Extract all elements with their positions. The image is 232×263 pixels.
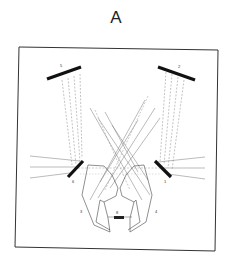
label-left-prism: 3 bbox=[80, 209, 83, 214]
right-incoming-rays bbox=[158, 157, 205, 179]
label-top-left-mirror: 5 bbox=[60, 63, 63, 68]
left-incoming-rays bbox=[30, 156, 80, 178]
mirror-left-small bbox=[68, 161, 83, 177]
label-right-small-mirror: 1 bbox=[164, 179, 167, 184]
mirror-top-left bbox=[47, 67, 81, 79]
mirror-right-small bbox=[155, 161, 171, 177]
optical-diagram: 5 2 6 1 3 4 8 bbox=[0, 0, 232, 263]
label-top-right-mirror: 2 bbox=[178, 64, 181, 69]
left-vertical-rays bbox=[62, 74, 82, 165]
label-center-element: 8 bbox=[116, 210, 119, 215]
right-prism bbox=[120, 165, 152, 232]
label-left-small-mirror: 6 bbox=[72, 179, 75, 184]
mirror-top-right bbox=[158, 67, 195, 80]
label-right-prism: 4 bbox=[155, 209, 158, 214]
center-element bbox=[108, 216, 132, 219]
right-vertical-rays bbox=[160, 72, 184, 170]
